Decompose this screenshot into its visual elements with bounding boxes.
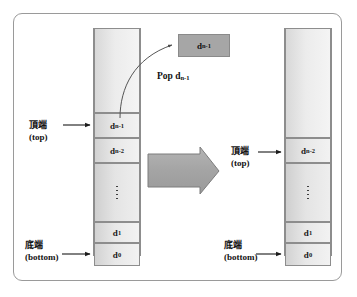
pop-transition-arrow-sub: n-1: [184, 170, 196, 178]
stack-cell-d-0: d0: [94, 243, 140, 266]
pop-transition-arrow-text: 疊出d: [160, 167, 184, 177]
pop-curve-label-sub: n-1: [181, 74, 190, 81]
stack-cell-ellipsis: [94, 163, 140, 222]
right-stack-top-label-cn: 頂端: [231, 146, 250, 158]
left-stack-top-label: 頂端 (top): [29, 120, 48, 143]
cell-label-sub: 0: [118, 251, 121, 258]
cell-label-sub: n-2: [115, 147, 124, 154]
stack-cell-d-n-1: dn-1: [94, 113, 140, 138]
pop-curve-label-text: Pop d: [157, 71, 181, 81]
right-stack-top-label-en: (top): [231, 158, 250, 170]
right-stack-bottom-label: 底端 (bottom): [224, 240, 258, 263]
after-pop-stack: dn-2 d1 d0: [284, 28, 332, 256]
stack-pop-diagram: dn-1 dn-2 d1 d0 dn-2: [0, 0, 357, 297]
pop-curve-label: Pop dn-1: [157, 71, 190, 81]
left-stack-top-label-cn: 頂端: [29, 120, 48, 132]
stack-cell-empty: [94, 28, 140, 113]
cell-label-sub: 0: [309, 251, 312, 258]
before-pop-stack: dn-1 dn-2 d1 d0: [93, 28, 141, 256]
stack-cell-d-1: d1: [285, 222, 331, 243]
left-stack-top-label-en: (top): [29, 132, 48, 144]
left-stack-bottom-label: 底端 (bottom): [25, 240, 59, 263]
stack-cell-d-1: d1: [94, 222, 140, 243]
pop-transition-arrow-label: 疊出dn-1: [160, 165, 196, 178]
cell-label-sub: n-2: [306, 147, 315, 154]
popped-value-box: dn-1: [178, 34, 230, 57]
vertical-ellipsis-icon: [307, 186, 309, 200]
stack-cell-d-n-2: dn-2: [285, 138, 331, 163]
right-stack-bottom-label-cn: 底端: [224, 240, 258, 252]
stack-cell-d-n-2: dn-2: [94, 138, 140, 163]
vertical-ellipsis-icon: [116, 186, 118, 200]
cell-label-sub: 1: [309, 229, 312, 236]
cell-label-sub: 1: [118, 229, 121, 236]
stack-cell-ellipsis: [285, 163, 331, 222]
left-stack-bottom-label-cn: 底端: [25, 240, 59, 252]
right-stack-bottom-label-en: (bottom): [224, 252, 258, 264]
stack-cell-empty: [285, 28, 331, 138]
right-stack-top-label: 頂端 (top): [231, 146, 250, 169]
left-stack-bottom-label-en: (bottom): [25, 252, 59, 264]
stack-cell-d-0: d0: [285, 243, 331, 266]
popped-value-sub: n-1: [202, 42, 211, 49]
cell-label-sub: n-1: [115, 122, 124, 129]
